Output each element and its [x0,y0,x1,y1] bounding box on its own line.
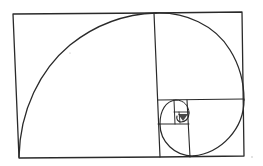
background [0,0,263,166]
scan-speck [69,52,70,53]
diagram-svg [0,0,263,166]
golden-spiral-diagram [0,0,263,166]
scan-speck [251,156,252,157]
